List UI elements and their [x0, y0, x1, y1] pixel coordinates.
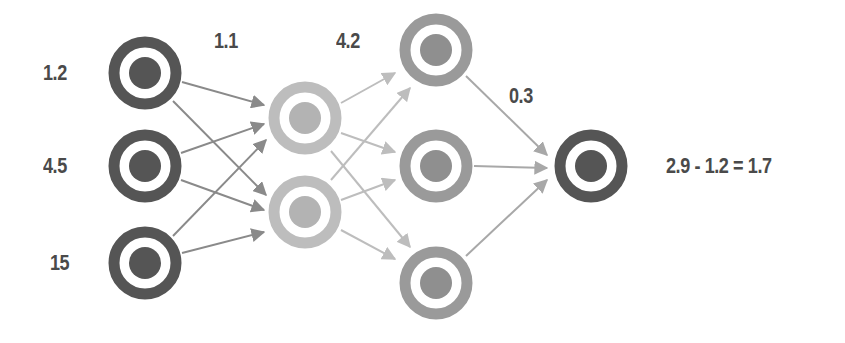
edge-in2-h1a	[181, 124, 264, 153]
edge-h2b-out	[474, 166, 547, 168]
edges-input-to-hidden1	[173, 82, 266, 253]
edge-h2a-out	[466, 76, 547, 155]
output-node	[560, 135, 622, 197]
weight-label-2: 4.2	[336, 30, 360, 52]
input-node-2	[114, 135, 176, 197]
hidden-layer-1	[274, 87, 336, 243]
hidden2-node-1	[405, 19, 467, 81]
input-value-label-2: 4.5	[43, 155, 67, 177]
input-node-3	[114, 232, 176, 294]
input-value-label-3: 15	[50, 252, 69, 274]
hidden1-node-1	[274, 87, 336, 149]
input-value-label-1: 1.2	[43, 62, 67, 84]
hidden-layer-2	[405, 19, 467, 314]
edges-hidden2-to-output	[466, 76, 547, 256]
hidden2-node-3	[405, 252, 467, 314]
output-equation-label: 2.9 - 1.2 = 1.7	[666, 155, 772, 177]
edge-h2c-out	[466, 180, 547, 256]
edge-in3-h1b	[182, 232, 264, 253]
weight-label-3: 0.3	[509, 85, 533, 107]
edge-in1-h1a	[182, 82, 264, 105]
input-node-1	[114, 42, 176, 104]
hidden1-node-2	[274, 181, 336, 243]
weight-label-1: 1.1	[214, 30, 238, 52]
output-layer	[560, 135, 622, 197]
input-layer	[114, 42, 176, 294]
edge-in1-h1b	[173, 101, 266, 195]
edge-h1b-h2c	[341, 230, 395, 259]
edge-h1a-h2a	[341, 73, 395, 103]
edge-in3-h1a	[173, 140, 266, 236]
hidden2-node-2	[405, 135, 467, 197]
edges-hidden1-to-hidden2	[331, 73, 410, 259]
